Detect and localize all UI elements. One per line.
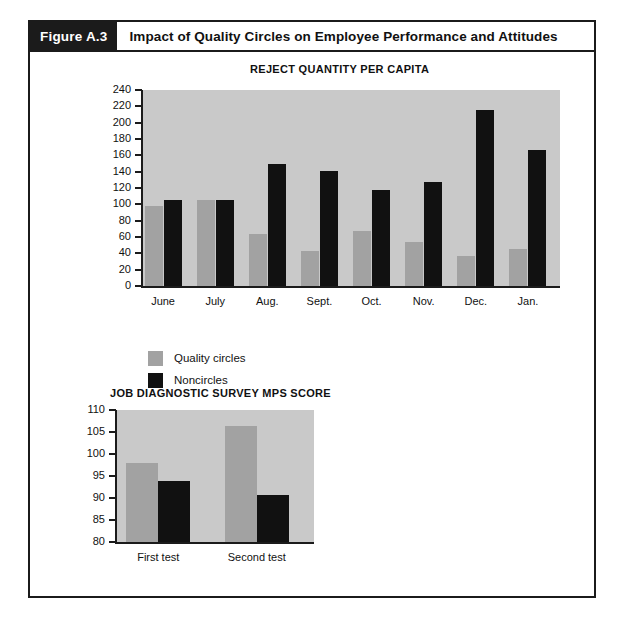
y-axis-tick: [109, 431, 116, 433]
y-axis-tick-label: 85: [65, 514, 105, 525]
y-axis-tick: [135, 269, 142, 271]
legend-label: Quality circles: [174, 352, 246, 364]
y-axis-tick: [135, 105, 142, 107]
x-axis-tick-label: First test: [108, 552, 208, 563]
bar: [372, 190, 390, 286]
y-axis-tick: [135, 236, 142, 238]
chart-title: JOB DIAGNOSTIC SURVEY MPS SCORE: [110, 387, 331, 399]
figure-header: Figure A.3 Impact of Quality Circles on …: [30, 22, 594, 52]
bar: [268, 164, 286, 286]
bar: [158, 481, 190, 542]
bar: [216, 200, 234, 286]
y-axis-tick-label: 95: [65, 470, 105, 481]
y-axis-tick-label: 100: [91, 198, 131, 209]
y-axis-tick-label: 80: [91, 215, 131, 226]
figure-title: Impact of Quality Circles on Employee Pe…: [117, 22, 558, 50]
y-axis-tick: [135, 220, 142, 222]
y-axis-tick: [109, 475, 116, 477]
bar: [476, 110, 494, 286]
bar: [249, 234, 267, 286]
y-axis-tick: [109, 453, 116, 455]
y-axis-tick-label: 180: [91, 133, 131, 144]
bar: [145, 206, 163, 286]
y-axis-tick: [109, 497, 116, 499]
bar: [301, 251, 319, 286]
y-axis-tick: [109, 519, 116, 521]
y-axis-tick: [135, 285, 142, 287]
y-axis-tick-label: 100: [65, 448, 105, 459]
y-axis-tick: [109, 541, 116, 543]
y-axis-tick: [135, 138, 142, 140]
y-axis-tick: [135, 203, 142, 205]
chart-legend: Quality circlesNoncircles: [148, 347, 246, 391]
y-axis-tick: [135, 171, 142, 173]
legend-swatch-noncircle: [148, 373, 163, 388]
bar: [320, 171, 338, 286]
bar: [405, 242, 423, 286]
x-axis-tick-label: Second test: [207, 552, 307, 563]
legend-swatch-quality: [148, 351, 163, 366]
y-axis-tick-label: 0: [91, 280, 131, 291]
y-axis-tick-label: 240: [91, 84, 131, 95]
y-axis-tick-label: 120: [91, 182, 131, 193]
y-axis-tick: [135, 252, 142, 254]
y-axis-tick-label: 90: [65, 492, 105, 503]
x-axis-tick-label: Jan.: [478, 296, 578, 307]
figure-frame: Figure A.3 Impact of Quality Circles on …: [28, 20, 596, 598]
figure-number-badge: Figure A.3: [30, 22, 117, 50]
y-axis-tick: [135, 89, 142, 91]
y-axis-tick-label: 140: [91, 166, 131, 177]
chart-title: REJECT QUANTITY PER CAPITA: [250, 63, 429, 75]
bar: [424, 182, 442, 286]
bar: [164, 200, 182, 286]
bar: [225, 426, 257, 542]
y-axis-line: [141, 90, 143, 288]
y-axis-tick: [135, 187, 142, 189]
y-axis-tick: [135, 154, 142, 156]
y-axis-tick-label: 105: [65, 426, 105, 437]
bar: [528, 150, 546, 286]
x-axis-line: [141, 286, 560, 288]
y-axis-tick-label: 160: [91, 149, 131, 160]
legend-item: Quality circles: [148, 347, 246, 369]
y-axis-tick-label: 80: [65, 536, 105, 547]
bar: [353, 231, 371, 286]
y-axis-tick: [109, 409, 116, 411]
y-axis-tick-label: 20: [91, 264, 131, 275]
y-axis-tick: [135, 122, 142, 124]
y-axis-tick-label: 60: [91, 231, 131, 242]
bar: [509, 249, 527, 286]
bar: [197, 200, 215, 286]
bar: [457, 256, 475, 286]
bar: [257, 495, 289, 542]
y-axis-tick-label: 220: [91, 100, 131, 111]
bar: [126, 463, 158, 542]
y-axis-tick-label: 40: [91, 247, 131, 258]
y-axis-tick-label: 110: [65, 404, 105, 415]
x-axis-line: [115, 542, 314, 544]
y-axis-tick-label: 200: [91, 117, 131, 128]
legend-label: Noncircles: [174, 374, 228, 386]
